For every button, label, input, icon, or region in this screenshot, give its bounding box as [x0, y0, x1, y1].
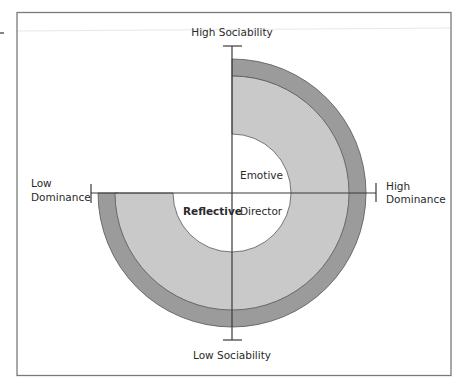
label-low-sociability: Low Sociability: [182, 349, 282, 362]
label-high-dominance-line2: Dominance: [386, 193, 446, 206]
label-low-dominance-line2: Dominance: [31, 191, 91, 204]
label-low-dominance-line1: Low: [31, 177, 52, 190]
quadrant-label-emotive: Emotive: [240, 169, 283, 182]
label-high-sociability: High Sociability: [182, 26, 282, 39]
label-high-dominance-line1: High: [386, 180, 410, 193]
quadrant-label-reflective: Reflective: [183, 205, 242, 218]
quadrant-label-director: Director: [240, 205, 282, 218]
diagram-canvas: High Sociability Low Sociability Low Dom…: [0, 0, 462, 386]
